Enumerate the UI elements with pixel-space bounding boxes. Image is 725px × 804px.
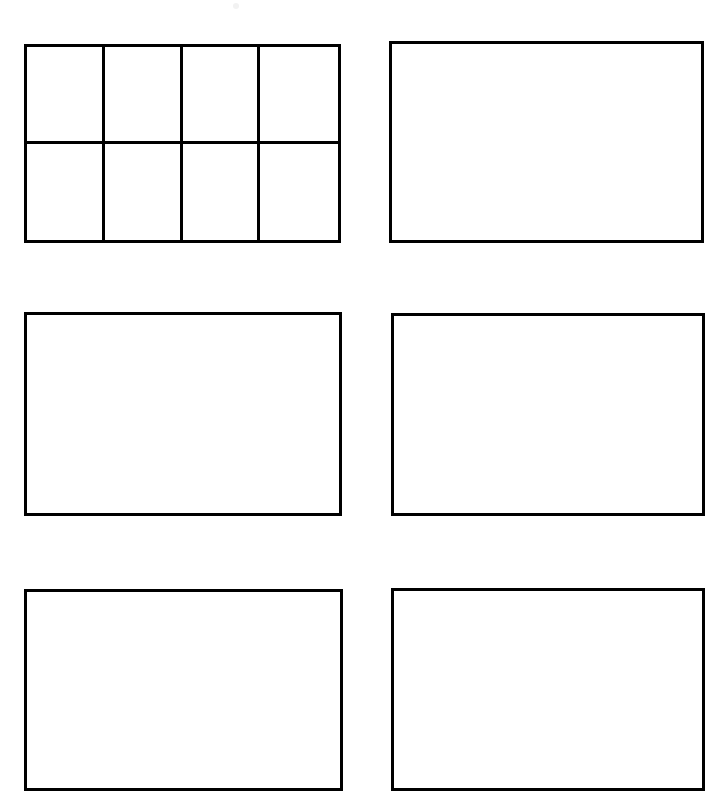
blank-panel[interactable] <box>389 41 704 243</box>
grid-cell[interactable] <box>260 144 338 241</box>
blank-panel[interactable] <box>24 589 343 791</box>
grid-cell[interactable] <box>183 47 261 144</box>
scan-speck-top <box>233 3 239 9</box>
grid-cell[interactable] <box>27 144 105 241</box>
grid-cell[interactable] <box>105 47 183 144</box>
grid-cell[interactable] <box>105 144 183 241</box>
blank-panel[interactable] <box>391 313 705 516</box>
blank-panel[interactable] <box>391 588 705 791</box>
worksheet-page <box>0 0 725 804</box>
grid-cell[interactable] <box>260 47 338 144</box>
grid-cell[interactable] <box>27 47 105 144</box>
grid-cell[interactable] <box>183 144 261 241</box>
subdivided-panel[interactable] <box>24 44 341 243</box>
blank-panel[interactable] <box>24 312 342 516</box>
